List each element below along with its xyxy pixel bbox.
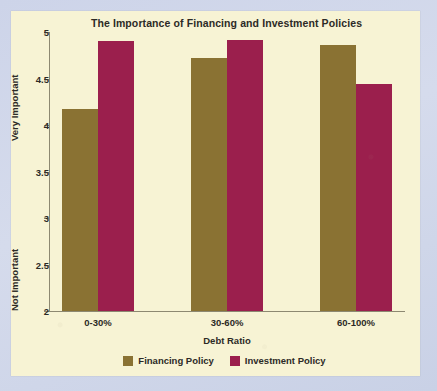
legend-swatch-icon [123, 356, 133, 366]
y-tick-label: 5 [21, 27, 49, 38]
bar-group [320, 32, 392, 311]
y-axis-ticks: 54.543.532.52 [11, 11, 49, 376]
legend-label: Financing Policy [138, 355, 214, 366]
y-axis-caption-bottom: Not Important [9, 249, 20, 311]
y-tick-label: 4.5 [21, 73, 49, 84]
scanned-page: The Importance of Financing and Investme… [0, 0, 437, 391]
bar-30-60--financing-policy[interactable] [191, 58, 227, 311]
y-tick-label: 4 [21, 120, 49, 131]
bar-60-100--investment-policy[interactable] [356, 84, 392, 311]
y-tick-label: 3.5 [21, 166, 49, 177]
bar-0-30--financing-policy[interactable] [62, 109, 98, 311]
bar-60-100--financing-policy[interactable] [320, 45, 356, 311]
bar-group [191, 32, 263, 311]
bar-0-30--investment-policy[interactable] [98, 41, 134, 311]
bar-group [62, 32, 134, 311]
x-axis-label: Debt Ratio [49, 335, 405, 346]
y-tick-label: 2 [21, 306, 49, 317]
y-tick-label: 3 [21, 213, 49, 224]
legend-swatch-icon [230, 356, 240, 366]
y-tick-label: 2.5 [21, 259, 49, 270]
x-axis-line [49, 311, 405, 312]
chart-legend: Financing PolicyInvestment Policy [11, 355, 420, 366]
x-tick-label: 60-100% [337, 317, 375, 328]
chart-title: The Importance of Financing and Investme… [11, 17, 420, 29]
x-tick-label: 30-60% [211, 317, 244, 328]
chart-panel: The Importance of Financing and Investme… [11, 11, 420, 376]
legend-item[interactable]: Financing Policy [123, 355, 214, 366]
legend-label: Investment Policy [245, 355, 326, 366]
y-axis-caption-top: Very Important [9, 74, 20, 141]
x-tick-label: 0-30% [84, 317, 111, 328]
plot-area [49, 32, 404, 311]
bar-30-60--investment-policy[interactable] [227, 40, 263, 311]
legend-item[interactable]: Investment Policy [230, 355, 326, 366]
